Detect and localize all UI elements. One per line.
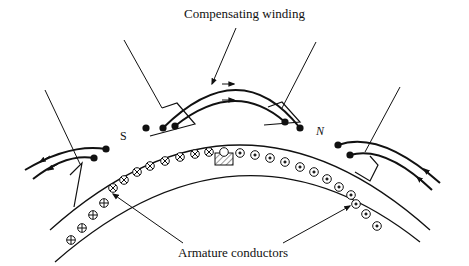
label-armature-conductors: Armature conductors — [178, 245, 288, 260]
leader-line-center-right — [282, 42, 316, 108]
compensating-coil-outer — [163, 90, 300, 128]
armature-conductor-neutral — [220, 148, 229, 157]
armature-pointer-right — [283, 206, 350, 243]
armature-pointer-left — [113, 194, 183, 243]
label-pole-south: S — [120, 129, 127, 143]
right-pole-slot — [355, 156, 378, 181]
leader-line-center-left — [124, 40, 162, 108]
right-coil-arrow-inner — [417, 177, 425, 184]
armature-conductors-dot — [236, 149, 382, 231]
right-coil-arrow-outer — [424, 169, 432, 176]
label-compensating-winding: Compensating winding — [184, 6, 305, 21]
left-pole-slot — [70, 163, 82, 207]
right-coil-inner — [350, 153, 432, 190]
left-coil-arrow-outer — [40, 156, 50, 162]
label-pole-north: N — [315, 124, 325, 138]
right-coil-outer — [338, 142, 440, 183]
compensating-winding-pointer — [212, 28, 236, 84]
armature-conductors-cross — [67, 148, 214, 245]
diagram-canvas: Compensating winding Armature conductors… — [0, 0, 469, 266]
